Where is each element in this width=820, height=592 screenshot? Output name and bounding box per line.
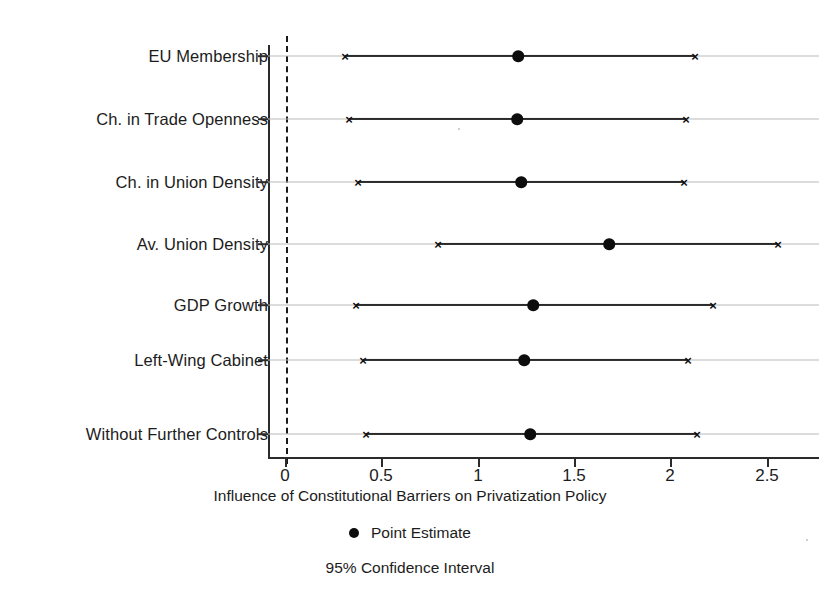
ci-lower-cap-icon xyxy=(351,300,362,311)
ci-upper-cap-icon xyxy=(690,51,701,62)
x-tick-label-1: 1 xyxy=(473,466,482,486)
legend-confidence-interval-label: 95% Confidence Interval xyxy=(0,559,820,577)
category-label-without-further-controls: Without Further Controls xyxy=(86,425,268,444)
x-tick-label-2: 2 xyxy=(665,466,674,486)
category-label-av-union-density: Av. Union Density xyxy=(137,235,268,254)
y-tick-0 xyxy=(258,55,268,57)
ci-upper-cap-icon xyxy=(681,114,692,125)
x-tick-label-1-5: 1.5 xyxy=(562,466,586,486)
point-estimate-marker xyxy=(512,50,524,62)
category-label-ch-in-trade-openness: Ch. in Trade Openness xyxy=(96,110,268,129)
y-axis-spine xyxy=(268,45,270,459)
ci-upper-cap-icon xyxy=(683,355,694,366)
category-label-left-wing-cabinet: Left-Wing Cabinet xyxy=(134,351,268,370)
y-tick-6 xyxy=(258,433,268,435)
y-tick-5 xyxy=(258,359,268,361)
y-tick-2 xyxy=(258,181,268,183)
zero-reference-line xyxy=(286,36,288,464)
legend-point-estimate-row: Point Estimate xyxy=(0,524,820,542)
category-label-eu-membership: EU Membership xyxy=(148,47,268,66)
category-label-ch-in-union-density: Ch. in Union Density xyxy=(116,173,268,192)
x-tick-label-0: 0 xyxy=(280,466,289,486)
ci-lower-cap-icon xyxy=(358,355,369,366)
ci-lower-cap-icon xyxy=(344,114,355,125)
y-tick-4 xyxy=(258,304,268,306)
ci-lower-cap-icon xyxy=(353,177,364,188)
ci-lower-cap-icon xyxy=(433,239,444,250)
chart-legend: Point Estimate 95% Confidence Interval xyxy=(0,524,820,577)
category-label-gdp-growth: GDP Growth xyxy=(174,296,268,315)
ci-lower-cap-icon xyxy=(361,429,372,440)
x-axis-title: Influence of Constitutional Barriers on … xyxy=(0,487,820,505)
x-tick-label-0-5: 0.5 xyxy=(369,466,393,486)
x-tick-label-2-5: 2.5 xyxy=(755,466,779,486)
ci-lower-cap-icon xyxy=(340,51,351,62)
point-estimate-marker xyxy=(518,354,530,366)
print-speck xyxy=(458,128,460,130)
filled-circle-icon xyxy=(349,528,359,538)
print-speck xyxy=(806,539,808,541)
point-estimate-marker xyxy=(603,238,615,250)
ci-upper-cap-icon xyxy=(708,300,719,311)
chart-canvas: EU Membership Ch. in Trade Openness Ch. … xyxy=(0,0,820,592)
ci-upper-cap-icon xyxy=(773,239,784,250)
x-axis-spine xyxy=(268,457,819,459)
point-estimate-marker xyxy=(511,113,523,125)
y-tick-1 xyxy=(258,118,268,120)
y-tick-3 xyxy=(258,243,268,245)
ci-upper-cap-icon xyxy=(679,177,690,188)
point-estimate-marker xyxy=(527,299,539,311)
ci-upper-cap-icon xyxy=(692,429,703,440)
point-estimate-marker xyxy=(515,176,527,188)
legend-point-estimate-label: Point Estimate xyxy=(371,524,471,541)
point-estimate-marker xyxy=(524,428,536,440)
